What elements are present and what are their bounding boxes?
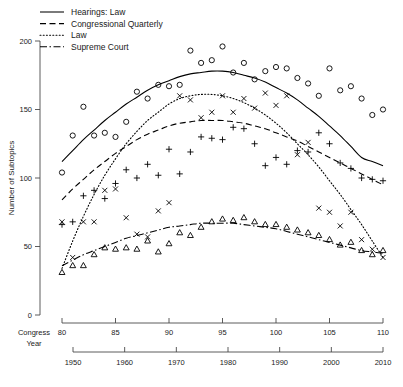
data-point-plus	[209, 135, 215, 141]
congress-axis-tick-label: 85	[111, 328, 119, 337]
data-point-plus	[177, 171, 183, 177]
data-point-circle	[145, 96, 150, 101]
data-point-cross	[209, 110, 214, 115]
data-point-circle	[134, 89, 139, 94]
data-point-triangle	[305, 230, 311, 235]
data-point-plus	[80, 193, 86, 199]
congress-axis-tick-label: 100	[270, 328, 283, 337]
data-point-cross	[231, 110, 236, 115]
data-point-triangle	[198, 224, 204, 229]
data-point-triangle	[91, 252, 97, 257]
congress-axis-tick-label: 80	[58, 328, 66, 337]
data-point-triangle	[316, 232, 322, 237]
year-axis-name: Year	[26, 339, 42, 348]
data-point-circle	[166, 84, 171, 89]
data-point-triangle	[380, 247, 386, 252]
data-point-plus	[112, 180, 118, 186]
data-point-circle	[284, 66, 289, 71]
data-point-cross	[177, 93, 182, 98]
y-axis-tick-label: 150	[19, 105, 32, 114]
data-point-plus	[273, 154, 279, 160]
data-point-triangle	[273, 221, 279, 226]
congress-axis-tick-label: 105	[323, 328, 336, 337]
data-point-triangle	[123, 245, 129, 250]
chart-container: 050100150200Number of Subtopics808590951…	[0, 0, 403, 387]
data-point-plus	[380, 178, 386, 184]
data-point-triangle	[241, 215, 247, 220]
data-point-circle	[59, 170, 64, 175]
data-point-triangle	[80, 262, 86, 267]
data-point-plus	[241, 126, 247, 132]
data-point-plus	[284, 161, 290, 167]
data-point-plus	[91, 187, 97, 193]
data-point-triangle	[134, 246, 140, 251]
data-point-cross	[113, 186, 118, 191]
data-point-circle	[177, 82, 182, 87]
fit-curve-solid	[62, 71, 383, 166]
data-point-plus	[123, 167, 129, 173]
data-point-plus	[326, 141, 332, 147]
data-point-circle	[81, 104, 86, 109]
data-point-circle	[380, 107, 385, 112]
data-point-triangle	[155, 249, 161, 254]
y-axis-tick-label: 50	[24, 242, 32, 251]
data-point-plus	[252, 141, 258, 147]
data-point-cross	[359, 237, 364, 242]
data-point-plus	[187, 149, 193, 155]
data-point-cross	[102, 188, 107, 193]
subtopics-scatter-chart: 050100150200Number of Subtopics808590951…	[0, 0, 403, 387]
congress-axis-tick-label: 110	[377, 328, 389, 337]
data-point-triangle	[252, 219, 258, 224]
data-point-plus	[230, 124, 236, 130]
data-point-circle	[306, 81, 311, 86]
congress-axis-tick-label: 95	[218, 328, 226, 337]
data-point-cross	[188, 97, 193, 102]
data-point-triangle	[70, 262, 76, 267]
data-point-plus	[166, 146, 172, 152]
data-point-circle	[70, 133, 75, 138]
data-point-circle	[188, 48, 193, 53]
data-point-triangle	[166, 241, 172, 246]
year-axis-tick-label: 1970	[168, 358, 185, 367]
year-axis-tick-label: 1960	[116, 358, 133, 367]
data-point-cross	[274, 103, 279, 108]
data-point-plus	[198, 134, 204, 140]
data-point-plus	[262, 163, 268, 169]
data-point-circle	[241, 60, 246, 65]
data-point-plus	[219, 137, 225, 143]
legend-label: Supreme Court	[71, 42, 129, 52]
year-axis-tick-label: 2010	[375, 358, 392, 367]
data-point-triangle	[177, 230, 183, 235]
data-point-triangle	[113, 246, 119, 251]
data-point-triangle	[187, 232, 193, 237]
data-point-plus	[359, 175, 365, 181]
data-point-plus	[102, 195, 108, 201]
data-point-triangle	[327, 236, 333, 241]
data-point-circle	[209, 58, 214, 63]
data-point-cross	[134, 232, 139, 237]
data-point-plus	[305, 149, 311, 155]
data-point-circle	[348, 84, 353, 89]
data-point-cross	[316, 206, 321, 211]
data-point-circle	[199, 60, 204, 65]
data-point-circle	[124, 119, 129, 124]
year-axis-tick-label: 1980	[220, 358, 237, 367]
data-point-triangle	[59, 269, 65, 274]
data-point-cross	[263, 91, 268, 96]
data-point-circle	[316, 93, 321, 98]
data-point-circle	[263, 69, 268, 74]
data-point-triangle	[284, 224, 290, 229]
data-point-plus	[316, 130, 322, 136]
legend-label: Law	[71, 30, 87, 40]
data-point-cross	[338, 223, 343, 228]
data-point-cross	[327, 210, 332, 215]
data-point-circle	[327, 66, 332, 71]
data-point-circle	[359, 96, 364, 101]
data-point-circle	[102, 130, 107, 135]
data-point-plus	[337, 160, 343, 166]
fit-curve-dashdot	[62, 223, 383, 266]
year-axis-tick-label: 1990	[271, 358, 288, 367]
data-point-circle	[338, 88, 343, 93]
data-point-circle	[220, 44, 225, 49]
data-point-cross	[156, 208, 161, 213]
